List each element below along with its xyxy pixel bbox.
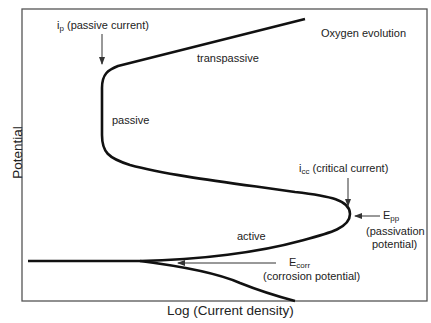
anodic-curve xyxy=(28,19,350,261)
active-label: active xyxy=(237,230,266,242)
ecorr-desc: (corrosion potential) xyxy=(263,270,360,282)
ecorr-subscript: corr xyxy=(296,261,310,270)
epp-label: Epp xyxy=(383,209,399,225)
epp-subscript: pp xyxy=(390,214,399,223)
ip-label: ip (passive current) xyxy=(57,19,149,35)
icc-label: icc (critical current) xyxy=(299,162,388,178)
transpassive-label: transpassive xyxy=(197,52,259,64)
ip-subscript: p xyxy=(59,24,63,33)
passive-label: passive xyxy=(112,114,149,126)
icc-subscript: cc xyxy=(301,167,309,176)
icc-text: (critical current) xyxy=(313,162,389,174)
epp-desc-line1: (passivation xyxy=(366,225,425,237)
ip-text: (passive current) xyxy=(67,19,149,31)
oxygen-evolution-label: Oxygen evolution xyxy=(321,27,406,39)
y-axis-label: Potential xyxy=(10,113,25,193)
x-axis-label: Log (Current density) xyxy=(167,303,294,318)
epp-desc-line2: potential) xyxy=(372,238,417,250)
